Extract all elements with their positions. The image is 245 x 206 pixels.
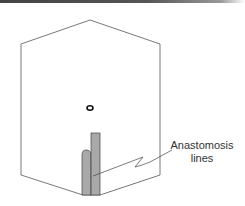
label-line-2: lines — [164, 152, 240, 165]
diagram-canvas: Anastomosis lines — [0, 0, 245, 206]
label-line-1: Anastomosis — [164, 139, 240, 152]
block-diagram — [0, 0, 245, 206]
graft-strip — [82, 133, 100, 195]
anastomosis-label: Anastomosis lines — [164, 139, 240, 165]
eye-marker — [87, 106, 93, 110]
